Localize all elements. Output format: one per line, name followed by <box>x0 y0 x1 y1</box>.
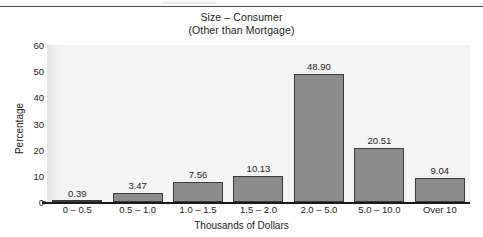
bar-slot: 20.51 <box>349 45 409 202</box>
bar-chart-figure: Size – Consumer (Other than Mortgage) 01… <box>0 0 483 237</box>
scan-rule-divider <box>0 6 483 7</box>
y-axis-label: Percentage <box>14 89 25 169</box>
bar[interactable] <box>173 182 223 202</box>
bar-value-label: 3.47 <box>103 180 173 191</box>
bar-slot: 7.56 <box>168 45 228 202</box>
bar[interactable] <box>113 193 163 202</box>
x-axis-tick-label: Over 10 <box>398 204 482 215</box>
bar[interactable] <box>294 74 344 202</box>
y-axis-tick-label: 50 <box>4 66 44 77</box>
chart-title-block: Size – Consumer (Other than Mortgage) <box>0 11 483 36</box>
bar-slot: 0.39 <box>47 45 107 202</box>
chart-subtitle: (Other than Mortgage) <box>0 24 483 37</box>
bar-value-label: 9.04 <box>405 165 475 176</box>
bar-slot: 10.13 <box>228 45 288 202</box>
bar-value-label: 10.13 <box>223 163 293 174</box>
x-axis-label: Thousands of Dollars <box>0 220 483 231</box>
y-axis-tick-label: 10 <box>4 170 44 181</box>
bar[interactable] <box>415 178 465 202</box>
bar[interactable] <box>354 148 404 202</box>
bar-slot: 3.47 <box>107 45 167 202</box>
bar-value-label: 20.51 <box>344 135 414 146</box>
bar-slot: 9.04 <box>410 45 470 202</box>
bar-slot: 48.90 <box>289 45 349 202</box>
bar[interactable] <box>52 200 102 202</box>
scan-artifact-ghost-text <box>162 0 216 5</box>
bar[interactable] <box>233 176 283 203</box>
chart-title: Size – Consumer <box>0 11 483 24</box>
bar-value-label: 48.90 <box>284 61 354 72</box>
y-axis-tick-label: 60 <box>4 40 44 51</box>
bars-layer: 0.393.477.5610.1348.9020.519.04 <box>47 45 470 202</box>
x-axis-ticks: 0 – 0.50.5 – 1.01.0 – 1.51.5 – 2.02.0 – … <box>47 204 470 220</box>
